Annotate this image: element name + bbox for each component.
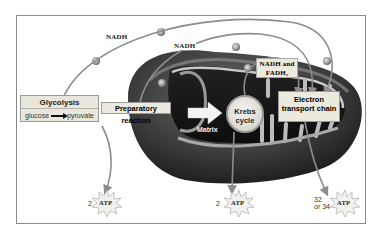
nadh-fadh2-label: NADH and FADH₂ <box>256 58 298 78</box>
fadh2-text: FADH₂ <box>257 69 297 78</box>
glycolysis-box: Glycolysis glucosepyruvate <box>20 95 99 122</box>
matrix-label: Matrix <box>197 126 218 133</box>
atp-label-glycolysis: ATP <box>99 199 112 206</box>
glucose-label: glucose <box>25 112 49 119</box>
glycolysis-reaction: glucosepyruvate <box>21 109 98 122</box>
nadh-and-text: NADH and <box>257 60 297 69</box>
atp-label-krebs: ATP <box>231 199 244 206</box>
electron-transport-chain-label: Electron transport chain <box>278 91 340 122</box>
atp-label-etc: ATP <box>337 199 350 206</box>
atp-count-krebs: 2 <box>216 200 220 207</box>
atp-count-etc-line2: or 34 <box>314 203 330 210</box>
atp-count-etc-line1: 32 <box>314 196 322 203</box>
right-arrow-icon <box>51 115 65 117</box>
pyruvate-label: pyruvate <box>67 112 94 119</box>
nadh-label-outer: NADH <box>106 33 127 41</box>
atp-count-glycolysis: 2 <box>88 200 92 207</box>
glycolysis-title: Glycolysis <box>21 96 98 109</box>
nadh-label-inner: NADH <box>173 42 196 50</box>
krebs-cycle-label: Krebs cycle <box>228 107 262 125</box>
preparatory-reaction-label: Preparatory reaction <box>101 102 171 114</box>
